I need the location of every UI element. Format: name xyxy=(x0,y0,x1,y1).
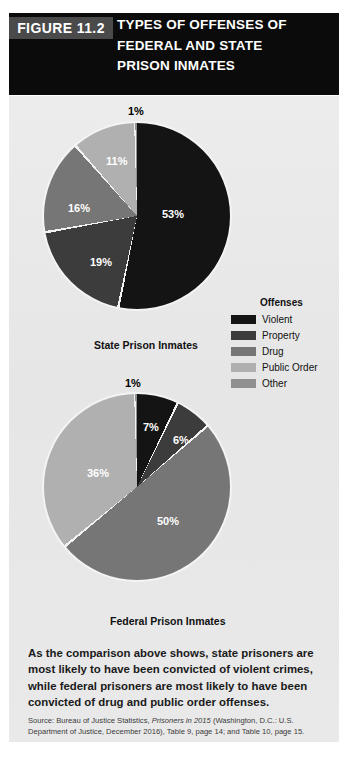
figure-header: FIGURE 11.2 TYPES OF OFFENSES OF FEDERAL… xyxy=(9,13,339,95)
legend-item-property: Property xyxy=(231,328,337,343)
federal-slice-label-violent: 7% xyxy=(143,421,159,433)
state-slice-label-property: 19% xyxy=(90,256,112,268)
state-pie-chart: 53% 19% 16% 11% 1% xyxy=(44,123,230,309)
state-slice-label-other: 1% xyxy=(128,105,144,117)
figure-number-label: FIGURE 11.2 xyxy=(17,20,105,36)
figure-number-box: FIGURE 11.2 xyxy=(9,17,113,39)
legend-label-other: Other xyxy=(262,378,287,389)
legend-swatch-public-order xyxy=(231,363,256,372)
federal-pie-chart: 7% 6% 50% 36% 1% xyxy=(44,394,230,580)
legend-swatch-drug xyxy=(231,347,256,356)
legend-swatch-property xyxy=(231,331,256,340)
federal-pie-graphic xyxy=(44,394,230,580)
source-prefix: Source: Bureau of Justice Statistics, xyxy=(28,716,152,725)
federal-slice-label-drug: 50% xyxy=(157,515,179,527)
legend-item-other: Other xyxy=(231,376,337,391)
state-slice-label-violent: 53% xyxy=(162,208,184,220)
figure-title: TYPES OF OFFENSES OF FEDERAL AND STATE P… xyxy=(117,15,329,77)
source-citation: Source: Bureau of Justice Statistics, Pr… xyxy=(28,716,320,738)
legend-label-property: Property xyxy=(262,330,300,341)
source-title: Prisoners in 2015 xyxy=(152,716,211,725)
state-slice-label-public-order: 11% xyxy=(106,155,127,167)
conclusion-text: As the comparison above shows, state pri… xyxy=(28,645,320,711)
legend-swatch-other xyxy=(231,379,256,388)
figure-title-line-3: PRISON INMATES xyxy=(117,56,329,77)
federal-chart-caption: Federal Prison Inmates xyxy=(110,615,226,627)
offenses-legend: Offenses Violent Property Drug Public Or… xyxy=(231,297,337,392)
legend-swatch-violent xyxy=(231,315,256,324)
figure-title-line-1: TYPES OF OFFENSES OF xyxy=(117,15,329,36)
legend-item-violent: Violent xyxy=(231,312,337,327)
federal-slice-label-other: 1% xyxy=(125,377,141,389)
legend-label-public-order: Public Order xyxy=(262,362,318,373)
state-chart-caption: State Prison Inmates xyxy=(94,339,198,351)
legend-label-drug: Drug xyxy=(262,346,284,357)
legend-item-public-order: Public Order xyxy=(231,360,337,375)
federal-slice-label-public-order: 36% xyxy=(87,467,109,479)
state-slice-label-drug: 16% xyxy=(68,202,90,214)
state-pie-graphic xyxy=(44,123,230,309)
legend-item-drug: Drug xyxy=(231,344,337,359)
legend-label-violent: Violent xyxy=(262,314,292,325)
figure-page: FIGURE 11.2 TYPES OF OFFENSES OF FEDERAL… xyxy=(0,0,347,768)
federal-slice-label-property: 6% xyxy=(173,434,189,446)
figure-title-line-2: FEDERAL AND STATE xyxy=(117,36,329,57)
legend-title: Offenses xyxy=(260,297,337,308)
